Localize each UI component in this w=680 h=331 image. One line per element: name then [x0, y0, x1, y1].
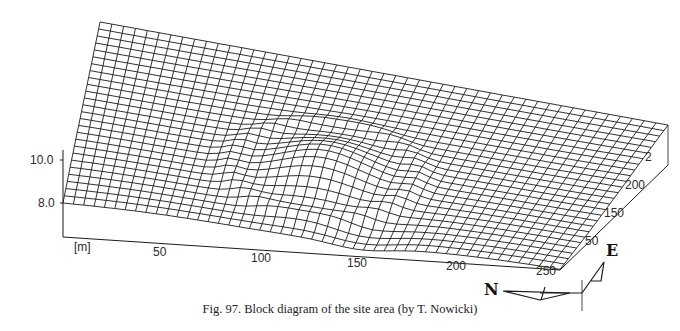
right-tick-truncated: 2: [645, 151, 652, 163]
bottom-tick-250: 250: [536, 265, 556, 277]
vertical-tick-10: 10.0: [30, 154, 53, 166]
block-diagram-figure: 10.0 8.0 [m] 50 100 150 200 250 50 150 2…: [0, 0, 680, 331]
wireframe-terrain-surface: [0, 0, 680, 331]
bottom-axis-unit: [m]: [74, 241, 91, 253]
vertical-tick-8: 8.0: [38, 197, 55, 209]
bottom-tick-200: 200: [446, 260, 466, 272]
bottom-tick-150: 150: [347, 257, 367, 269]
bottom-tick-50: 50: [153, 246, 166, 258]
right-tick-200: 200: [625, 179, 645, 191]
north-arrow: [503, 291, 570, 300]
figure-caption: Fig. 97. Block diagram of the site area …: [0, 302, 680, 317]
right-tick-50: 50: [585, 235, 598, 247]
compass-north-label: N: [484, 282, 499, 298]
right-tick-150: 150: [604, 207, 624, 219]
bottom-tick-100: 100: [251, 252, 271, 264]
compass-east-label: E: [606, 243, 618, 259]
